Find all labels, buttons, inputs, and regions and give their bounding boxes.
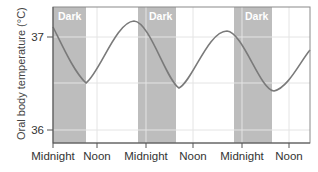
x-tick-label-0: Midnight <box>31 150 75 162</box>
x-tick-label-3: Noon <box>179 150 207 162</box>
y-axis-ticks: 37 36 <box>31 31 53 136</box>
x-axis-tick-labels: Midnight Noon Midnight Noon Midnight Noo… <box>31 150 302 162</box>
temperature-chart: Dark Dark Dark 37 36 Oral body temperatu… <box>0 0 318 172</box>
x-tick-label-4: Midnight <box>220 150 264 162</box>
y-axis-label: Oral body temperature (°C) <box>15 7 27 140</box>
dark-band-1 <box>53 7 86 143</box>
y-tick-label-37: 37 <box>31 31 44 43</box>
dark-band-3 <box>234 7 272 143</box>
x-tick-label-5: Noon <box>275 150 303 162</box>
dark-label-2: Dark <box>149 10 173 22</box>
dark-label-1: Dark <box>58 10 82 22</box>
y-tick-label-36: 36 <box>31 124 44 136</box>
x-tick-label-2: Midnight <box>124 150 168 162</box>
x-tick-label-1: Noon <box>83 150 111 162</box>
x-axis-ticks <box>53 143 289 148</box>
dark-label-3: Dark <box>245 10 269 22</box>
dark-bands <box>53 7 272 143</box>
